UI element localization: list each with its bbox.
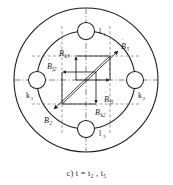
slot-label-l1-text: l [99,27,101,36]
slot-circle-l2 [78,121,95,138]
slot-label-l2-sub: 2 [103,134,106,139]
figure-caption: c) t = t₂ , t₅ [67,168,107,178]
component-label-Bk3-sub: k3 [64,53,69,59]
component-label-Bk2-sub: k2 [100,112,105,118]
phasor-label-B5: ̇ B 5 [121,39,129,53]
phasor-label-B5-sub: 5 [126,46,129,52]
slot-circle-k2 [127,72,144,89]
component-label-Bk2: ̇ B k2 [95,105,106,119]
component-label-Bk3-accent: ̇ [60,46,62,47]
component-label-Bf2-accent: ̇ [48,59,50,60]
slot-label-k1: k 1 [26,91,34,101]
phasor-label-B2-sub: 2 [49,120,52,126]
slot-circle-l1 [78,23,95,40]
phasor-label-B2-accent: ̇ [45,113,47,114]
slot-label-k2: k 2 [138,91,146,101]
component-label-Bk3: ̇ B k3 [59,46,70,60]
slot-label-k1-sub: 1 [31,96,34,101]
slot-circle-k1 [29,72,46,89]
phasor-label-B5-accent: ̇ [122,39,124,40]
component-label-Bf5-sub: f5 [109,99,113,105]
slot-label-l2: l 2 [99,129,106,139]
component-label-Bk2-symbol: B [95,108,100,117]
slot-label-k1-text: k [26,91,30,100]
component-label-Bf5: ̇ B f5 [104,92,114,106]
component-label-Bf5-symbol: B [104,95,109,104]
component-label-Bk2-accent: ̇ [96,105,98,106]
component-label-Bf5-accent: ̇ [105,92,107,93]
figure-root: l 1 k 2 l 2 k 1 ̇ B 5 ̇ B 2 ̇ B [0,0,173,185]
slot-label-k2-text: k [138,91,142,100]
component-label-Bk3-symbol: B [59,49,64,58]
caption-container: c) t = t₂ , t₅ [0,160,173,185]
slot-label-l2-text: l [99,129,101,138]
slot-label-l1: l 1 [99,27,106,37]
component-label-Bf2-symbol: B [47,62,52,71]
slot-label-k2-sub: 2 [143,96,146,101]
phasor-label-B5-symbol: B [121,42,126,51]
component-label-Bf2: ̇ B f2 [47,59,57,73]
machine-cross-section-diagram: l 1 k 2 l 2 k 1 ̇ B 5 ̇ B 2 ̇ B [0,0,173,160]
phasor-label-B2-symbol: B [44,116,49,125]
component-label-Bf2-sub: f2 [52,66,56,72]
